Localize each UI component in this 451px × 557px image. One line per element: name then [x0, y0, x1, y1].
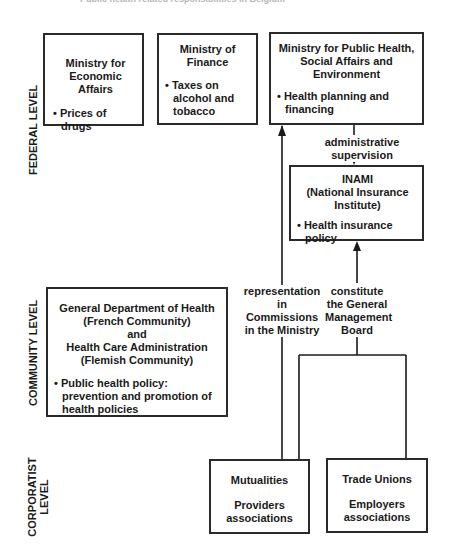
level-label-community: COMMUNITY LEVEL — [27, 300, 39, 406]
box-inami: INAMI (National Insurance Institute) Hea… — [289, 165, 424, 241]
level-label-corporatist: CORPORATIST LEVEL — [26, 454, 50, 540]
box-title: Institute) — [297, 199, 418, 212]
box-bullet: Health planning and financing — [277, 90, 416, 116]
edge-label-constitute-board: constitute the General Management Board — [325, 285, 389, 337]
box-title: Social Affairs and — [277, 55, 416, 68]
edge-label-line: Board — [325, 324, 389, 337]
box-ministry-economic-affairs: Ministry for Economic Affairs Prices of … — [43, 33, 144, 126]
box-subtitle: Providers — [215, 499, 304, 512]
edge-label-line: in — [243, 298, 321, 311]
box-title: Ministry of — [165, 43, 250, 56]
box-subtitle: Employers — [332, 498, 422, 511]
edge-label-line: representation — [243, 285, 321, 298]
box-title: Environment — [277, 68, 416, 81]
edge-label-line: Management — [325, 311, 389, 324]
box-ministry-finance: Ministry of Finance Taxes on alcohol and… — [157, 33, 258, 125]
box-title: Ministry for Public Health, — [277, 42, 416, 55]
box-title: Economic Affairs — [53, 70, 138, 96]
box-trade-unions: Trade Unions Employers associations — [326, 458, 428, 533]
box-community-health-departments: General Department of Health (French Com… — [46, 287, 228, 417]
box-bullet: Public health policy: prevention and pro… — [54, 377, 220, 416]
level-label-corporatist-line1: CORPORATIST — [26, 454, 38, 540]
box-title: (National Insurance — [297, 186, 418, 199]
box-subtitle: associations — [215, 512, 304, 525]
edge-label-line: in the Ministry — [243, 324, 321, 337]
box-title: INAMI — [297, 173, 418, 186]
box-title: (Flemish Community) — [54, 354, 220, 367]
box-subtitle: associations — [332, 511, 422, 524]
edge-label-line: constitute — [325, 285, 389, 298]
box-title: Mutualities — [215, 474, 304, 487]
box-title: General Department of Health — [54, 302, 220, 315]
box-bullet: Taxes on alcohol and tobacco — [165, 79, 250, 118]
edge-label-line: the General — [325, 298, 389, 311]
box-bullet: Health insurance policy — [297, 219, 418, 245]
level-label-federal: FEDERAL LEVEL — [27, 85, 39, 175]
edge-label-line: Commissions — [243, 311, 321, 324]
box-title: (French Community) — [54, 315, 220, 328]
edge-label-representation: representation in Commissions in the Min… — [243, 285, 321, 337]
box-mutualities: Mutualities Providers associations — [209, 459, 310, 534]
edge-label-administrative-supervision: administrative supervision — [294, 136, 430, 162]
arrowhead-up-icon — [278, 125, 286, 136]
box-bullet: Prices of drugs — [53, 107, 138, 133]
box-title: and — [54, 328, 220, 341]
box-title: Trade Unions — [332, 473, 422, 486]
box-ministry-public-health: Ministry for Public Health, Social Affai… — [269, 32, 424, 125]
box-title: Finance — [165, 56, 250, 69]
box-title: Health Care Administration — [54, 341, 220, 354]
box-title: Ministry for — [53, 57, 138, 70]
level-label-corporatist-line2: LEVEL — [38, 454, 50, 540]
